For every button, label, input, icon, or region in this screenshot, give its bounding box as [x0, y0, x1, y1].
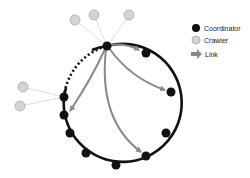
coordinator-node	[167, 88, 176, 97]
crawlers	[15, 10, 134, 111]
coordinator-node	[60, 93, 69, 102]
coordinator-node	[82, 149, 91, 158]
coordinator-node	[60, 111, 69, 120]
crawler-node	[18, 82, 28, 92]
coordinator-ring	[64, 44, 182, 162]
crawler-edge	[75, 20, 107, 46]
coordinator-node	[142, 152, 151, 161]
crawler-node	[70, 15, 80, 25]
coordinator-node	[162, 129, 171, 138]
crawler-node	[89, 10, 99, 20]
crawler-legend-icon	[192, 36, 200, 44]
legend: Coordinator Crawler Link	[191, 24, 241, 59]
legend-label-crawler: Crawler	[204, 37, 229, 44]
p2p-crawler-diagram: Coordinator Crawler Link	[0, 0, 250, 178]
legend-label-link: Link	[205, 51, 218, 58]
coordinator-node	[66, 129, 75, 138]
coordinator-node	[142, 49, 151, 58]
crawler-edge	[23, 87, 64, 97]
crawler-node	[15, 101, 25, 111]
crawler-node	[124, 10, 134, 20]
link-legend-icon	[191, 49, 202, 59]
ring-dotted-gap	[64, 46, 107, 97]
legend-label-coordinator: Coordinator	[204, 25, 241, 32]
coordinator-legend-icon	[192, 24, 200, 32]
crawler-edge	[20, 97, 64, 106]
crawler-edge	[107, 15, 129, 46]
links	[70, 45, 165, 152]
link-arrow	[70, 49, 105, 111]
coordinator-node	[112, 161, 121, 170]
coordinator-node	[103, 42, 112, 51]
crawler-edges	[20, 15, 129, 106]
